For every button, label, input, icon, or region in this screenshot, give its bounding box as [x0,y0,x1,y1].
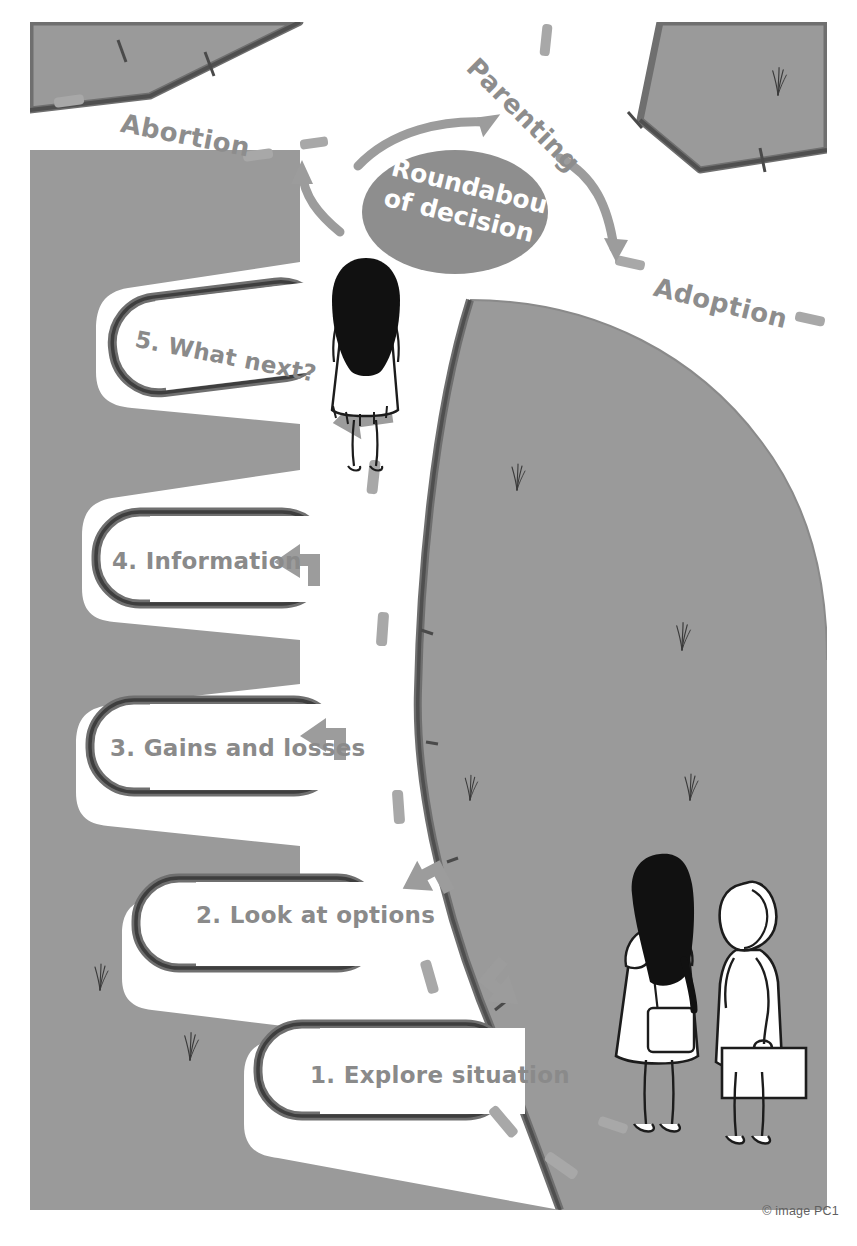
illustration-canvas: Abortion Parenting Adoption Roundabout o… [0,0,857,1246]
step-label-4: 4. Information [112,548,302,574]
step-label-2: 2. Look at options [196,902,435,928]
copyright-credit: © image PC1 [762,1204,839,1218]
step-label-3: 3. Gains and losses [110,735,366,761]
step-label-1: 1. Explore situation [310,1062,570,1088]
shoulder-bag [648,1008,694,1052]
